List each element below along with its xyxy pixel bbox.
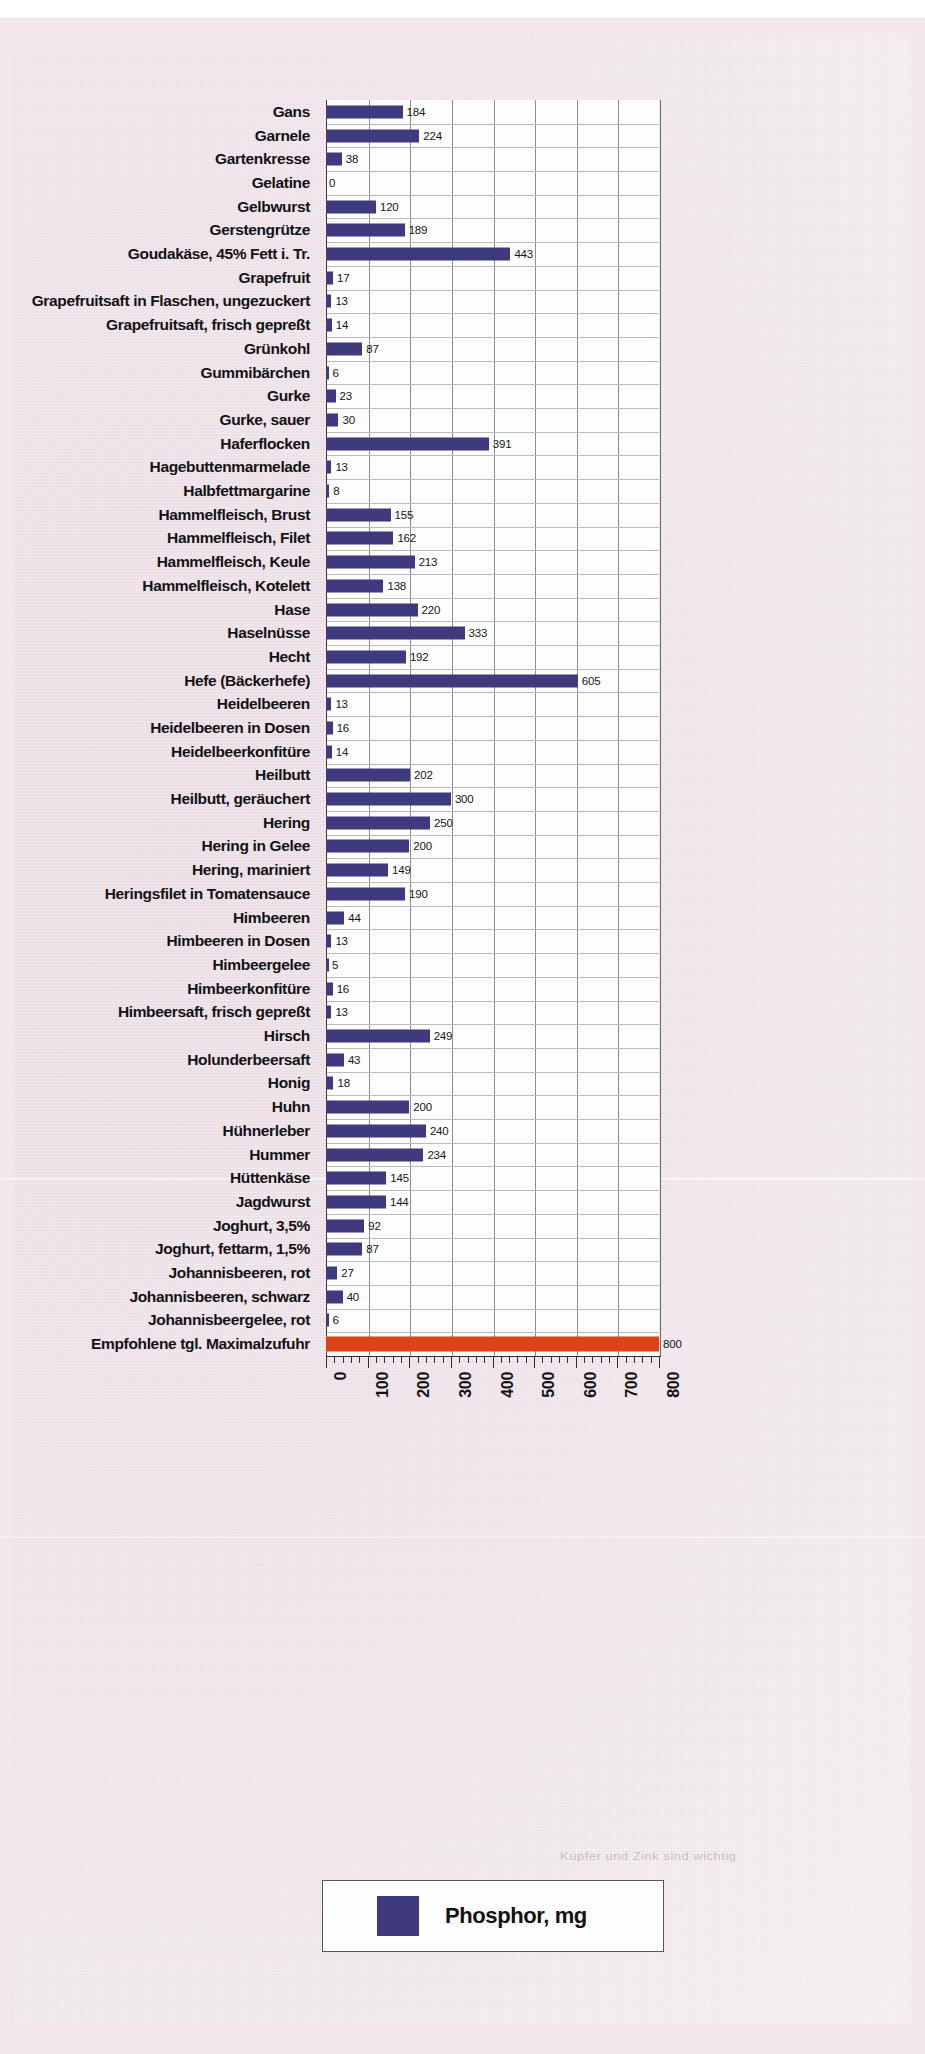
bar-value-label: 30: [342, 414, 354, 426]
legend-color-swatch: [377, 1896, 419, 1936]
data-bar: [326, 650, 406, 663]
category-label: Himbeerkonfitüre: [187, 980, 310, 998]
data-bar: [326, 366, 329, 379]
bar-value-label: 87: [366, 343, 378, 355]
data-bar: [326, 1148, 423, 1161]
bar-row: 240: [326, 1119, 659, 1143]
bar-row: 443: [326, 242, 659, 266]
data-bar: [326, 105, 403, 118]
category-label: Gans: [273, 103, 310, 121]
bar-value-label: 800: [663, 1338, 682, 1350]
data-bar: [326, 1290, 343, 1303]
bar-value-label: 13: [335, 461, 347, 473]
bar-row: 14: [326, 313, 659, 337]
category-label: Heidelbeeren in Dosen: [150, 719, 310, 737]
category-label: Goudakäse, 45% Fett i. Tr.: [128, 245, 310, 263]
data-bar: [326, 248, 510, 261]
x-tick-label: 0: [332, 1372, 350, 1381]
category-label: Himbeergelee: [213, 956, 310, 974]
axis-tick-minor: [526, 1357, 527, 1363]
axis-tick-minor: [434, 1357, 435, 1363]
category-label: Hecht: [269, 648, 310, 666]
axis-tick-minor: [601, 1357, 602, 1363]
x-tick-label: 200: [415, 1372, 433, 1398]
axis-tick-minor: [542, 1357, 543, 1363]
category-label: Honig: [268, 1074, 310, 1092]
data-bar: [326, 319, 332, 332]
category-label: Gartenkresse: [215, 150, 310, 168]
bar-value-label: 43: [348, 1054, 360, 1066]
axis-tick-minor: [651, 1357, 652, 1363]
data-bar: [326, 485, 329, 498]
axis-tick-major: [534, 1357, 535, 1368]
bar-row: 6: [326, 1309, 659, 1333]
bar-value-label: 190: [409, 888, 428, 900]
plot-area: 1842243801201894431713148762330391138155…: [326, 100, 659, 1356]
axis-tick-minor: [459, 1357, 460, 1363]
category-label: Hammelfleisch, Brust: [159, 506, 311, 524]
x-tick-label: 800: [665, 1372, 683, 1398]
bar-row: 200: [326, 835, 659, 859]
legend-label: Phosphor, mg: [445, 1903, 587, 1929]
category-label: Gelatine: [252, 174, 310, 192]
bar-value-label: 300: [455, 793, 474, 805]
category-label: Jagdwurst: [236, 1193, 310, 1211]
bar-row: 213: [326, 550, 659, 574]
data-bar: [326, 461, 331, 474]
category-label: Gurke, sauer: [219, 411, 310, 429]
bar-row: 220: [326, 598, 659, 622]
bar-row: 13: [326, 455, 659, 479]
bar-row: 189: [326, 218, 659, 242]
category-label: Garnele: [255, 127, 310, 145]
data-bar: [326, 1219, 364, 1232]
axis-tick-major: [409, 1357, 410, 1368]
axis-tick-minor: [393, 1357, 394, 1363]
bar-row: 120: [326, 195, 659, 219]
data-bar: [326, 271, 333, 284]
bar-row: 5: [326, 953, 659, 977]
data-bar: [326, 342, 362, 355]
bar-value-label: 38: [346, 153, 358, 165]
bar-value-label: 16: [337, 722, 349, 734]
data-bar: [326, 864, 388, 877]
axis-tick-major: [493, 1357, 494, 1368]
bar-row: 27: [326, 1261, 659, 1285]
bar-value-label: 14: [336, 319, 348, 331]
axis-tick-minor: [642, 1357, 643, 1363]
bar-row: 92: [326, 1214, 659, 1238]
category-label: Hering: [263, 814, 310, 832]
x-tick-label: 100: [374, 1372, 392, 1398]
axis-tick-minor: [376, 1357, 377, 1363]
bar-value-label: 443: [514, 248, 533, 260]
category-label: Heidelbeerkonfitüre: [171, 743, 310, 761]
scan-ghost-text: Kupfer und Zink sind wichtig: [560, 1849, 737, 1863]
x-tick-label: 500: [540, 1372, 558, 1398]
category-label: Gurke: [267, 387, 310, 405]
bar-value-label: 23: [340, 390, 352, 402]
bar-row: 6: [326, 361, 659, 385]
bar-value-label: 145: [390, 1172, 409, 1184]
bar-row: 18: [326, 1072, 659, 1096]
axis-tick-minor: [517, 1357, 518, 1363]
data-bar: [326, 579, 383, 592]
bar-row: 13: [326, 290, 659, 314]
bar-value-label: 14: [336, 746, 348, 758]
category-label: Johannisbeeren, schwarz: [129, 1288, 310, 1306]
category-label: Johannisbeeren, rot: [169, 1264, 311, 1282]
data-bar: [326, 1124, 426, 1137]
bar-row: 333: [326, 621, 659, 645]
category-label: Himbeeren in Dosen: [166, 932, 310, 950]
bar-value-label: 13: [335, 1006, 347, 1018]
bar-value-label: 44: [348, 912, 360, 924]
data-bar: [326, 437, 489, 450]
data-bar: [326, 674, 578, 687]
bar-value-label: 18: [337, 1077, 349, 1089]
x-tick-label: 600: [582, 1372, 600, 1398]
data-bar: [326, 1077, 333, 1090]
bar-value-label: 8: [333, 485, 339, 497]
bar-row: 87: [326, 337, 659, 361]
bar-value-label: 202: [414, 769, 433, 781]
bar-value-label: 144: [390, 1196, 409, 1208]
bar-value-label: 149: [392, 864, 411, 876]
bar-row: 8: [326, 479, 659, 503]
